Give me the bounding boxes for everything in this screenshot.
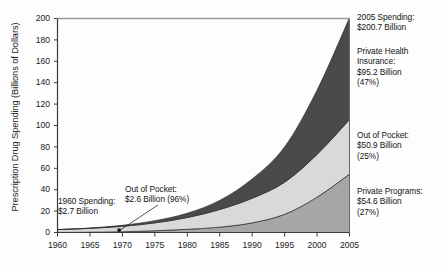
annotation-spending-2005: 2005 Spending: $200.7 Billion	[357, 12, 446, 33]
annotation-private-programs-2005: Private Programs: $54.6 Billion (27%)	[357, 186, 446, 217]
y-tick-label: 180	[22, 36, 50, 45]
y-tick-label: 60	[22, 164, 50, 173]
y-tick-label: 100	[22, 121, 50, 130]
annotation-private-health-insurance-2005: Private Health Insurance: $95.2 Billion …	[357, 46, 446, 88]
prescription-drug-spending-chart: Prescription Drug Spending (Billions of …	[0, 0, 446, 266]
y-tick-label: 80	[22, 143, 50, 152]
x-tick-label: 2005	[330, 241, 370, 250]
y-tick-label: 20	[22, 207, 50, 216]
y-tick-label: 140	[22, 78, 50, 87]
annotation-out-of-pocket-2005: Out of Pocket: $50.9 Billion (25%)	[357, 130, 446, 161]
y-tick-label: 120	[22, 100, 50, 109]
y-tick-label: 200	[22, 14, 50, 23]
y-tick-label: 0	[22, 228, 50, 237]
annotation-out-of-pocket-1960: Out of Pocket: $2.6 Billion (96%)	[125, 184, 237, 205]
y-tick-label: 40	[22, 185, 50, 194]
y-tick-label: 160	[22, 57, 50, 66]
